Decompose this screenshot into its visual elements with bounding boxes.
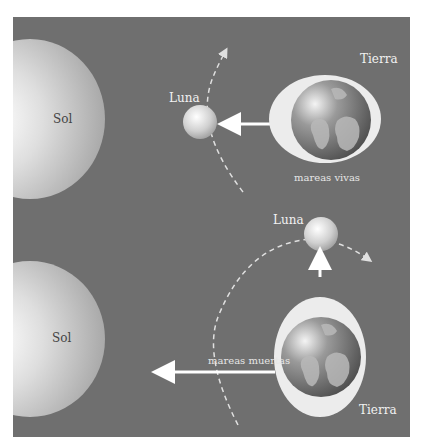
moon-top [183, 105, 217, 139]
sun-label-top: Sol [53, 112, 72, 126]
bottom-scene [13, 217, 368, 425]
diagram-panel: Sol Luna Tierra mareas vivas Sol Luna Ti… [13, 17, 410, 437]
earth-label-top: Tierra [360, 52, 398, 66]
earth-label-bottom: Tierra [359, 403, 397, 417]
tides-illustration [13, 17, 410, 437]
earth-top [291, 80, 371, 160]
tide-label-top: mareas vivas [294, 172, 360, 183]
sun-label-bottom: Sol [52, 331, 71, 345]
moon-label-bottom: Luna [273, 213, 304, 227]
tide-label-bottom: mareas muertas [208, 355, 290, 366]
moon-label-top: Luna [169, 91, 200, 105]
moon-bottom [304, 217, 338, 251]
earth-bottom [281, 317, 361, 397]
